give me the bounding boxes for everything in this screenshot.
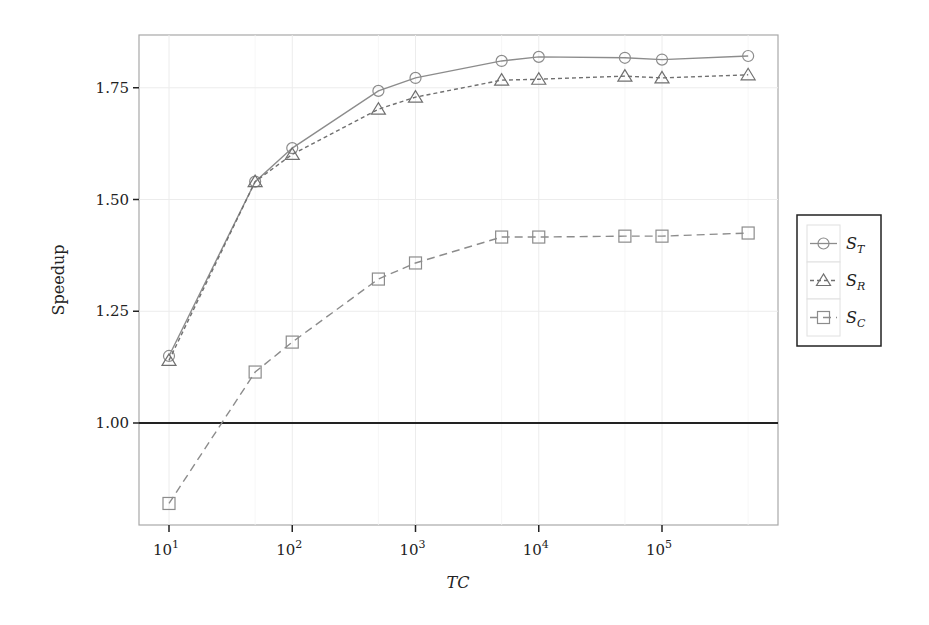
y-axis-title: Speedup	[49, 245, 68, 316]
x-axis: 101102103104105	[153, 525, 672, 559]
y-axis: 1.001.251.501.75	[96, 79, 139, 432]
x-tick-label: 105	[646, 538, 672, 559]
y-tick-label: 1.00	[96, 414, 129, 432]
plot-panel	[139, 35, 778, 525]
speedup-chart: 1.001.251.501.75 101102103104105 TC Spee…	[0, 0, 929, 625]
y-tick-label: 1.50	[96, 191, 129, 209]
x-axis-title: TC	[447, 573, 470, 592]
legend: STSRSC	[797, 215, 881, 346]
y-tick-label: 1.75	[96, 79, 129, 97]
y-tick-label: 1.25	[96, 302, 129, 320]
x-tick-label: 103	[399, 538, 425, 559]
x-tick-label: 104	[523, 538, 549, 559]
x-tick-label: 101	[153, 538, 179, 559]
x-tick-label: 102	[276, 538, 302, 559]
